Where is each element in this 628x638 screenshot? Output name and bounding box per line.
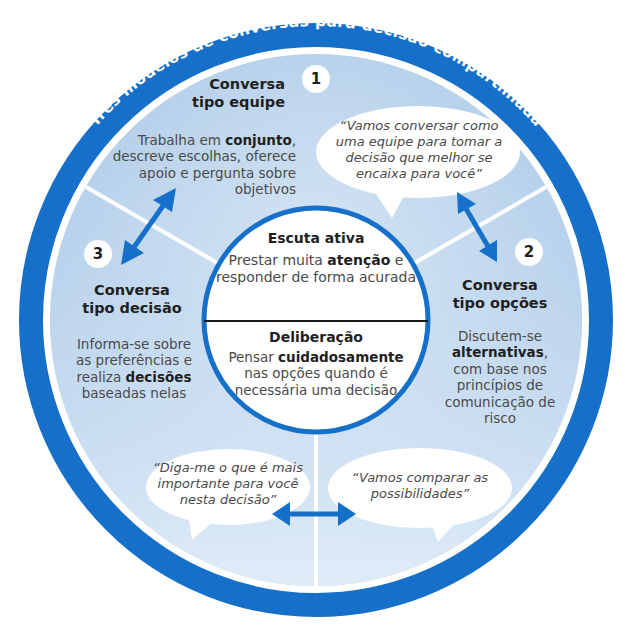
options-description-bold: alternativas bbox=[452, 344, 544, 360]
active-listening-title: Escuta ativa bbox=[226, 230, 406, 247]
deliberation-text: Pensar bbox=[228, 349, 278, 365]
team-quote: “Vamos conversar como uma equipe para to… bbox=[330, 118, 508, 181]
options-description-text: Discutem-se bbox=[458, 328, 542, 344]
active-listening-description: Prestar muita atenção e responder de for… bbox=[216, 252, 416, 286]
decision-description-bold: decisões bbox=[126, 369, 192, 385]
team-description: Trabalha em conjunto, descreve escolhas,… bbox=[100, 132, 296, 198]
section-number-1: 1 bbox=[302, 65, 330, 93]
team-description-text: Trabalha em bbox=[138, 132, 226, 148]
decision-title-line1: Conversa bbox=[68, 282, 196, 300]
decision-title-line2: tipo decisão bbox=[68, 300, 196, 318]
options-quote: “Vamos comparar as possibilidades” bbox=[350, 470, 490, 502]
deliberation-description: Pensar cuidadosamente nas opções quando … bbox=[222, 349, 410, 398]
deliberation-text-post: nas opções quando é necessária uma decis… bbox=[235, 365, 398, 397]
shared-decision-diagram: Três modelos de conversas para decisão c… bbox=[0, 0, 628, 638]
active-listening-bold: atenção bbox=[327, 252, 390, 268]
team-description-bold: conjunto bbox=[225, 132, 291, 148]
decision-title: Conversa tipo decisão bbox=[68, 282, 196, 317]
team-title-line1: Conversa bbox=[160, 76, 285, 94]
decision-description-text-post: baseadas nelas bbox=[82, 385, 187, 401]
deliberation-bold: cuidadosamente bbox=[278, 349, 404, 365]
active-listening-text: Prestar muita bbox=[229, 252, 328, 268]
section-number-3: 3 bbox=[84, 240, 112, 268]
team-title-line2: tipo equipe bbox=[160, 94, 285, 112]
decision-description: Informa-se sobre as preferências e reali… bbox=[74, 336, 194, 402]
diagram-graphics: Três modelos de conversas para decisão c… bbox=[0, 0, 628, 638]
decision-quote: “Diga-me o que é mais importante para vo… bbox=[150, 460, 306, 508]
options-description: Discutem-se alternativas, com base nos p… bbox=[440, 328, 560, 427]
team-title: Conversa tipo equipe bbox=[160, 76, 285, 111]
section-number-2: 2 bbox=[515, 238, 543, 266]
options-title: Conversa tipo opções bbox=[440, 277, 560, 312]
options-title-line1: Conversa bbox=[440, 277, 560, 295]
deliberation-title: Deliberação bbox=[226, 329, 406, 346]
options-title-line2: tipo opções bbox=[440, 295, 560, 313]
